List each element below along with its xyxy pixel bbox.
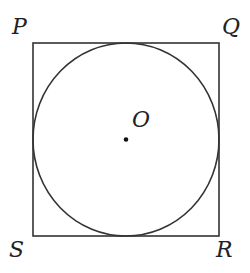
- vertex-label-r: R: [216, 239, 233, 261]
- diagram-canvas: [0, 0, 250, 273]
- vertex-label-s: S: [9, 239, 24, 261]
- center-point-o: [124, 137, 129, 142]
- inscribed-circle-diagram: P Q S R O: [0, 0, 250, 273]
- vertex-label-q: Q: [222, 16, 240, 38]
- center-label-o: O: [132, 109, 150, 131]
- vertex-label-p: P: [12, 16, 27, 38]
